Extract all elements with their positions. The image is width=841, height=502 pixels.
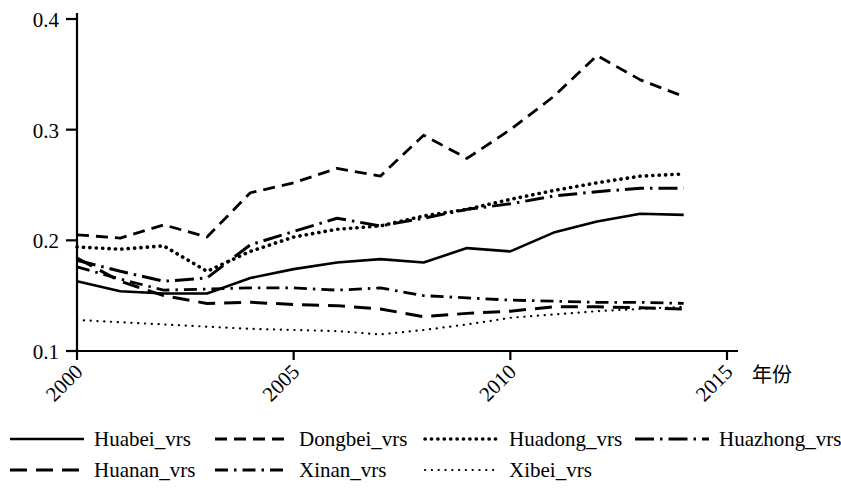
legend-item-label: Xibei_vrs: [509, 458, 592, 483]
legend-item-label: Dongbei_vrs: [299, 427, 408, 452]
y-axis-tick-label: 0.4: [33, 8, 60, 32]
legend-line-swatch: [633, 432, 711, 446]
legend-item-label: Huanan_vrs: [94, 458, 195, 483]
legend-item-label: Huadong_vrs: [509, 427, 622, 452]
x-axis-tick-label: 2000: [41, 360, 88, 407]
y-axis-tick-label: 0.3: [33, 119, 59, 143]
series-line-xibei_vrs: [77, 307, 684, 335]
legend-line-swatch: [423, 463, 501, 477]
legend-line-swatch: [8, 463, 86, 477]
legend-item-label: Xinan_vrs: [299, 458, 387, 483]
legend-item-huabei_vrs[interactable]: Huabei_vrs: [8, 424, 191, 454]
legend-item-huazhong_vrs[interactable]: Huazhong_vrs: [633, 424, 841, 454]
legend-item-label: Huazhong_vrs: [719, 427, 841, 452]
x-axis-tick-label: 2015: [691, 360, 738, 407]
legend-line-swatch: [8, 432, 86, 446]
legend-row: Huanan_vrsXinan_vrsXibei_vrs: [0, 454, 832, 484]
y-axis-tick-label: 0.1: [33, 340, 59, 364]
legend-item-label: Huabei_vrs: [94, 427, 191, 452]
x-axis-tick-label: 2005: [258, 360, 305, 407]
legend-item-huanan_vrs[interactable]: Huanan_vrs: [8, 455, 195, 485]
x-axis-title: 年份: [752, 364, 792, 386]
legend-line-swatch: [423, 432, 501, 446]
series-line-huazhong_vrs: [77, 188, 684, 281]
plot-area: 0.10.20.30.42000200520102015年份: [0, 0, 832, 415]
x-axis-tick-label: 2010: [474, 360, 521, 407]
legend-row: Huabei_vrsDongbei_vrsHuadong_vrsHuazhong…: [0, 424, 832, 454]
legend-line-swatch: [213, 432, 291, 446]
series-line-xinan_vrs: [77, 267, 684, 304]
legend-item-dongbei_vrs[interactable]: Dongbei_vrs: [213, 424, 408, 454]
line-chart: 0.10.20.30.42000200520102015年份: [0, 0, 832, 415]
legend-item-xinan_vrs[interactable]: Xinan_vrs: [213, 455, 387, 485]
series-line-dongbei_vrs: [77, 56, 684, 239]
legend-line-swatch: [213, 463, 291, 477]
y-axis-tick-label: 0.2: [33, 229, 59, 253]
legend-item-xibei_vrs[interactable]: Xibei_vrs: [423, 455, 592, 485]
chart-legend: Huabei_vrsDongbei_vrsHuadong_vrsHuazhong…: [0, 424, 832, 494]
legend-item-huadong_vrs[interactable]: Huadong_vrs: [423, 424, 622, 454]
